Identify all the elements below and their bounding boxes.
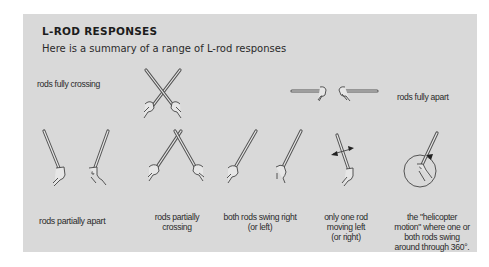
label-line: the "helicopter <box>391 212 473 222</box>
rods-swing-right-icon <box>220 127 310 197</box>
label-line: moving left <box>315 222 377 232</box>
label-one-rod-moving-left: only one rod moving left (or right) <box>315 212 377 242</box>
label-rods-swing-right: both rods swing right (or left) <box>211 212 309 232</box>
helicopter-rotation-icon <box>395 127 455 197</box>
label-rods-partially-crossing: rods partially crossing <box>141 212 213 232</box>
rods-partially-apart-icon <box>31 127 121 197</box>
label-line: crossing <box>141 222 213 232</box>
label-rods-fully-apart: rods fully apart <box>397 92 449 102</box>
rods-partially-crossing-icon <box>141 127 216 197</box>
figure-title: L-ROD RESPONSES <box>42 25 157 37</box>
label-line: (or left) <box>211 222 309 232</box>
figure-subtitle: Here is a summary of a range of L-rod re… <box>42 43 286 54</box>
rods-apart-horizontal-icon <box>289 82 389 106</box>
label-line: (or right) <box>315 232 377 242</box>
label-rods-partially-apart: rods partially apart <box>39 216 105 226</box>
label-line: both rods swing right <box>211 212 309 222</box>
label-helicopter-motion: the "helicopter motion" where one or bot… <box>391 212 473 252</box>
label-line: motion" where one or <box>391 222 473 232</box>
label-rods-fully-crossing: rods fully crossing <box>37 79 100 89</box>
single-rod-arrows-icon <box>323 127 373 197</box>
l-rod-responses-panel: L-ROD RESPONSES Here is a summary of a r… <box>23 14 477 252</box>
label-line: both rods swing <box>391 232 473 242</box>
crossed-rods-icon <box>128 62 198 122</box>
label-line: rods partially <box>141 212 213 222</box>
label-line: only one rod <box>315 212 377 222</box>
label-line: around through 360°. <box>391 242 473 252</box>
